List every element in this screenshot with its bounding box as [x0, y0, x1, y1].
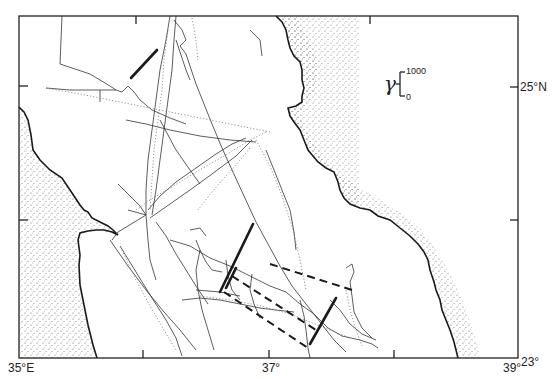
map-canvas	[0, 0, 555, 379]
east-coastline	[276, 16, 518, 358]
legend-max-label: 1000	[406, 66, 426, 76]
legend-min-label: 0	[406, 92, 411, 102]
west-coastline	[19, 107, 118, 358]
lon-label-39: 39°	[503, 361, 521, 375]
lat-label-23: 23°	[521, 355, 539, 369]
lon-label-35e: 35°E	[8, 361, 34, 375]
lon-label-37: 37°	[262, 361, 280, 375]
anomaly-bar-1	[131, 50, 157, 78]
anomaly-bar-2	[220, 224, 253, 292]
legend-symbol: γ	[384, 72, 396, 96]
lat-label-25n: 25°N	[520, 80, 547, 94]
dashed-line-1	[270, 264, 352, 290]
